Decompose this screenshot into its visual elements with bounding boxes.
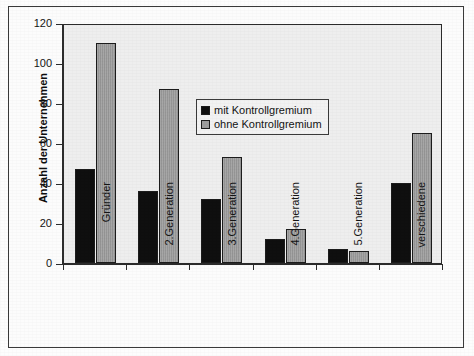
y-axis-tick bbox=[56, 24, 63, 25]
y-axis-tick bbox=[56, 264, 63, 265]
x-axis-label: Gründer bbox=[100, 182, 112, 272]
x-axis-tick bbox=[63, 265, 64, 270]
y-axis-tick-label: 0 bbox=[10, 257, 52, 269]
bar-verschiedene-series-0 bbox=[391, 183, 411, 263]
y-axis-tick-label: 40 bbox=[10, 177, 52, 189]
legend-item: ohne Kontrollgremium bbox=[201, 117, 322, 131]
chart-legend: mit Kontrollgremiumohne Kontrollgremium bbox=[196, 99, 329, 135]
bar-5-generation-series-0 bbox=[328, 249, 348, 263]
x-axis-tick bbox=[442, 265, 443, 270]
x-axis-label: verschiedene bbox=[415, 182, 427, 272]
y-axis-tick-label: 80 bbox=[10, 97, 52, 109]
x-axis-label: 3.Generation bbox=[226, 182, 238, 272]
y-axis-tick-label: 120 bbox=[10, 17, 52, 29]
x-axis-tick bbox=[379, 265, 380, 270]
y-axis-tick-label: 60 bbox=[10, 137, 52, 149]
legend-item-label: ohne Kontrollgremium bbox=[214, 118, 322, 130]
y-axis-tick-label: 20 bbox=[10, 217, 52, 229]
x-axis-label: 4.Generation bbox=[289, 182, 301, 272]
x-axis-label: 2.Generation bbox=[163, 182, 175, 272]
bars-layer bbox=[64, 25, 441, 263]
plot-area bbox=[63, 24, 442, 264]
bar-4-generation-series-0 bbox=[265, 239, 285, 263]
legend-swatch-icon bbox=[201, 106, 210, 115]
legend-item: mit Kontrollgremium bbox=[201, 103, 322, 117]
x-axis-label: 5.Generation bbox=[352, 182, 364, 272]
legend-item-label: mit Kontrollgremium bbox=[214, 104, 312, 116]
x-axis-tick bbox=[126, 265, 127, 270]
x-axis-tick bbox=[253, 265, 254, 270]
y-axis-tick bbox=[56, 64, 63, 65]
bar-3-generation-series-0 bbox=[201, 199, 221, 263]
x-axis-tick bbox=[316, 265, 317, 270]
x-axis-tick bbox=[189, 265, 190, 270]
chart-figure: Anzahl der Unternehmen 020406080100120 G… bbox=[0, 0, 474, 356]
y-axis-tick-label: 100 bbox=[10, 57, 52, 69]
bar-gr-nder-series-0 bbox=[75, 169, 95, 263]
y-axis-tick bbox=[56, 224, 63, 225]
bar-2-generation-series-0 bbox=[138, 191, 158, 263]
legend-swatch-icon bbox=[201, 120, 210, 129]
y-axis-tick bbox=[56, 104, 63, 105]
y-axis-tick bbox=[56, 144, 63, 145]
y-axis-tick bbox=[56, 184, 63, 185]
